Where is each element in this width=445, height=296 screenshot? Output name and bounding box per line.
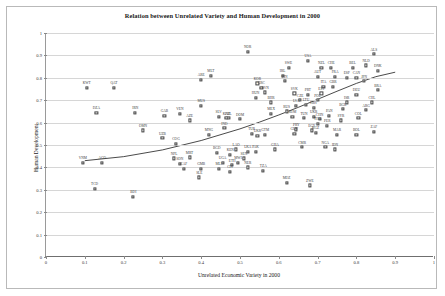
data-point[interactable] (339, 119, 342, 122)
data-point-label: CAF (180, 162, 187, 166)
data-point[interactable] (293, 132, 296, 135)
data-point[interactable] (273, 148, 276, 151)
data-point[interactable] (345, 76, 348, 79)
data-point[interactable] (285, 181, 288, 184)
data-point[interactable] (223, 127, 226, 130)
data-point[interactable] (351, 66, 354, 69)
data-point[interactable] (332, 85, 335, 88)
data-point[interactable] (316, 75, 319, 78)
data-point[interactable] (238, 118, 241, 121)
data-point[interactable] (182, 167, 185, 170)
data-point[interactable] (355, 76, 358, 79)
data-point-label: ISR (344, 96, 349, 100)
data-point[interactable] (225, 117, 228, 120)
data-point-label: OMN (139, 124, 147, 128)
data-point[interactable] (326, 124, 329, 127)
data-point[interactable] (215, 151, 218, 154)
data-point[interactable] (291, 115, 294, 118)
data-point[interactable] (333, 148, 336, 151)
data-point-label: TCD (91, 183, 98, 187)
data-point[interactable] (283, 80, 286, 83)
data-point[interactable] (262, 169, 265, 172)
data-point[interactable] (370, 101, 373, 104)
data-point[interactable] (306, 93, 309, 96)
data-point-label: NPL (171, 152, 178, 156)
data-point[interactable] (308, 184, 311, 187)
data-point[interactable] (295, 104, 298, 107)
data-point[interactable] (254, 96, 257, 99)
data-point[interactable] (372, 53, 375, 56)
data-point[interactable] (328, 114, 331, 117)
data-point[interactable] (221, 161, 224, 164)
data-point[interactable] (112, 86, 115, 89)
data-point[interactable] (229, 153, 232, 156)
data-point-label: GHA (271, 143, 279, 147)
data-point[interactable] (254, 150, 257, 153)
data-point[interactable] (172, 157, 175, 160)
data-point[interactable] (314, 131, 317, 134)
data-point-label: HRV (310, 102, 317, 106)
data-point[interactable] (101, 161, 104, 164)
data-point[interactable] (246, 50, 249, 53)
x-tick-label: 0 (45, 260, 47, 265)
gridline-horizontal (46, 190, 434, 191)
data-point-label: TUN (300, 112, 307, 116)
data-point[interactable] (95, 111, 98, 114)
data-point[interactable] (198, 176, 201, 179)
data-point[interactable] (217, 167, 220, 170)
data-point[interactable] (357, 117, 360, 120)
data-point[interactable] (134, 111, 137, 114)
data-point[interactable] (355, 93, 358, 96)
data-point[interactable] (207, 133, 210, 136)
data-point[interactable] (287, 66, 290, 69)
data-point[interactable] (141, 129, 144, 132)
data-point[interactable] (333, 75, 336, 78)
x-tick-label: 0.4 (198, 260, 204, 265)
data-point[interactable] (209, 74, 212, 77)
data-point[interactable] (306, 59, 309, 62)
data-point[interactable] (365, 64, 368, 67)
x-tick-mark (318, 256, 319, 259)
data-point[interactable] (335, 133, 338, 136)
data-point[interactable] (163, 114, 166, 117)
data-point[interactable] (93, 187, 96, 190)
data-point[interactable] (300, 146, 303, 149)
x-tick-mark (201, 256, 202, 259)
data-point[interactable] (372, 130, 375, 133)
data-point[interactable] (269, 112, 272, 115)
data-point[interactable] (269, 101, 272, 104)
data-point[interactable] (200, 78, 203, 81)
data-point[interactable] (302, 117, 305, 120)
data-point[interactable] (363, 80, 366, 83)
data-point[interactable] (188, 119, 191, 122)
data-point[interactable] (264, 91, 267, 94)
data-point-label: CIV (227, 166, 233, 170)
data-point[interactable] (365, 109, 368, 112)
data-point[interactable] (246, 166, 249, 169)
data-point[interactable] (236, 161, 239, 164)
data-point-label: HUN (252, 92, 260, 96)
data-point-label: CHL (368, 96, 375, 100)
data-point[interactable] (81, 161, 84, 164)
data-point[interactable] (376, 69, 379, 72)
data-point[interactable] (235, 148, 238, 151)
data-point[interactable] (264, 133, 267, 136)
data-point[interactable] (341, 108, 344, 111)
data-point[interactable] (188, 156, 191, 159)
data-point[interactable] (376, 89, 379, 92)
data-point[interactable] (200, 104, 203, 107)
data-point[interactable] (250, 132, 253, 135)
data-point[interactable] (174, 142, 177, 145)
data-point[interactable] (178, 112, 181, 115)
data-point[interactable] (217, 115, 220, 118)
data-point[interactable] (229, 170, 232, 173)
data-point[interactable] (293, 92, 296, 95)
data-point[interactable] (132, 195, 135, 198)
data-point-label: MRT (186, 151, 193, 155)
data-point[interactable] (304, 103, 307, 106)
data-point[interactable] (256, 134, 259, 137)
data-point[interactable] (161, 137, 164, 140)
data-point[interactable] (355, 133, 358, 136)
data-point[interactable] (85, 86, 88, 89)
data-point[interactable] (324, 146, 327, 149)
